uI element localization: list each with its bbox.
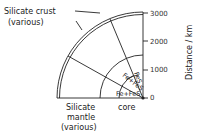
planet-structure-diagram: Silicate crust (various) Silicate mantle… xyxy=(0,0,199,140)
crust-inner-arc xyxy=(60,15,144,99)
mantle-label-3: (various) xyxy=(61,123,97,132)
crust-outer-arc xyxy=(57,12,143,98)
crust-label-2: (various) xyxy=(8,18,44,27)
center-point xyxy=(141,96,144,99)
mantle-label-1: Silicate xyxy=(66,103,95,112)
tick-label-3000: 3000 xyxy=(150,10,168,18)
crust-leader-line xyxy=(75,11,100,13)
tick-label-0: 0 xyxy=(150,94,154,102)
core-label: core xyxy=(118,103,135,112)
fe-fes-lower-label: Fe+FeS xyxy=(116,90,140,98)
crust-leader-line-2 xyxy=(76,21,82,30)
mantle-label-2: mantle xyxy=(67,113,95,122)
crust-label-1: Silicate crust xyxy=(4,7,56,16)
tick-label-2000: 2000 xyxy=(150,38,168,46)
axis-title: Distance / km xyxy=(185,25,194,80)
tick-label-1000: 1000 xyxy=(150,66,168,74)
